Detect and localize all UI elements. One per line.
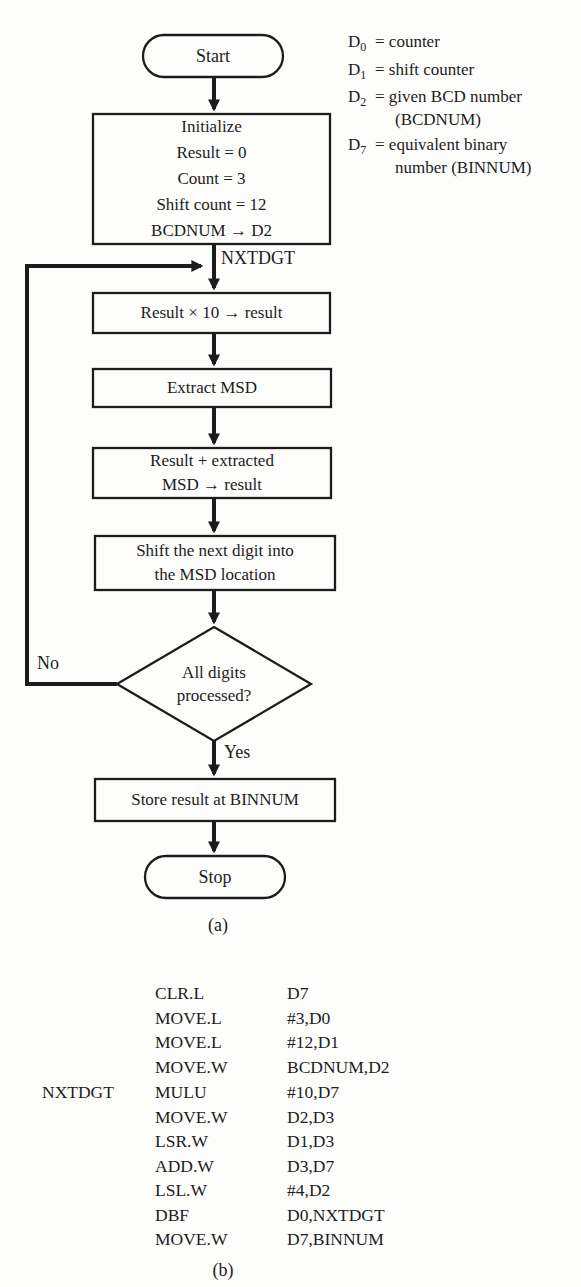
legend-desc: = equivalent binary — [375, 134, 531, 157]
add-line: Result + extracted — [150, 449, 274, 473]
code-operands: #3,D0 — [287, 1008, 330, 1029]
legend-desc: = given BCD number — [375, 86, 522, 109]
code-opcode: MOVE.W — [155, 1057, 227, 1078]
code-line: MOVE.W BCDNUM,D2 — [0, 1057, 581, 1080]
stop-terminal-label: Stop — [145, 856, 285, 898]
legend-desc: = counter — [375, 31, 440, 54]
initialize-line: Initialize — [181, 114, 241, 140]
code-operands: D7,BINNUM — [287, 1229, 384, 1250]
figure-bcd-to-binary: Start Initialize Result = 0 Count = 3 Sh… — [0, 0, 581, 1287]
legend-desc-cont: (BCDNUM) — [375, 109, 522, 132]
code-opcode: ADD.W — [155, 1156, 214, 1177]
code-opcode: MOVE.L — [155, 1008, 222, 1029]
register-name: D1 — [348, 59, 375, 87]
extract-box-label: Extract MSD — [93, 369, 331, 407]
yes-branch-label: Yes — [224, 742, 250, 763]
code-operands: D7 — [287, 983, 308, 1004]
part-a-caption: (a) — [198, 915, 238, 936]
decision-line: processed? — [177, 684, 252, 707]
code-line: MOVE.W D2,D3 — [0, 1107, 581, 1130]
initialize-line: Shift count = 12 — [156, 192, 266, 218]
code-line: DBF D0,NXTDGT — [0, 1205, 581, 1228]
add-box-label: Result + extracted MSD → result — [93, 448, 331, 498]
code-line: ADD.W D3,D7 — [0, 1156, 581, 1179]
code-operands: D1,D3 — [287, 1131, 334, 1152]
legend-desc-cont: number (BINNUM) — [375, 157, 531, 180]
register-name: D0 — [348, 31, 375, 59]
initialize-line: Result = 0 — [176, 140, 246, 166]
code-line: CLR.L D7 — [0, 983, 581, 1006]
initialize-line: Count = 3 — [177, 166, 245, 192]
legend-entry-d1: D1 = shift counter — [348, 59, 531, 87]
code-opcode: MOVE.W — [155, 1229, 227, 1250]
code-line: MOVE.L #12,D1 — [0, 1032, 581, 1055]
register-name: D2 — [348, 86, 375, 131]
code-operands: #10,D7 — [287, 1082, 339, 1103]
multiply-box-label: Result × 10 → result — [93, 293, 330, 333]
code-line: NXTDGT MULU #10,D7 — [0, 1082, 581, 1105]
code-operands: #12,D1 — [287, 1032, 339, 1053]
code-operands: D3,D7 — [287, 1156, 334, 1177]
code-label: NXTDGT — [42, 1082, 114, 1103]
shift-box-label: Shift the next digit into the MSD locati… — [95, 536, 335, 590]
legend-entry-d2: D2 = given BCD number (BCDNUM) — [348, 86, 531, 131]
code-opcode: CLR.L — [155, 983, 204, 1004]
code-line: LSR.W D1,D3 — [0, 1131, 581, 1154]
legend-entry-d7: D7 = equivalent binary number (BINNUM) — [348, 134, 531, 179]
code-operands: D2,D3 — [287, 1107, 334, 1128]
code-opcode: MOVE.W — [155, 1107, 227, 1128]
legend-entry-d0: D0 = counter — [348, 31, 531, 59]
code-line: LSL.W #4,D2 — [0, 1180, 581, 1203]
nxtdgt-branch-label: NXTDGT — [221, 248, 295, 269]
decision-diamond-label: All digits processed? — [117, 627, 311, 741]
add-line: MSD → result — [162, 473, 262, 497]
code-operands: BCDNUM,D2 — [287, 1057, 390, 1078]
shift-line: Shift the next digit into — [136, 539, 294, 563]
initialize-line: BCDNUM → D2 — [151, 218, 272, 244]
code-operands: D0,NXTDGT — [287, 1205, 385, 1226]
code-opcode: MULU — [155, 1082, 207, 1103]
part-b-caption: (b) — [203, 1260, 243, 1281]
register-legend: D0 = counter D1 = shift counter D2 = giv… — [348, 31, 531, 179]
code-line: MOVE.L #3,D0 — [0, 1008, 581, 1031]
legend-desc: = shift counter — [375, 59, 474, 82]
code-opcode: LSR.W — [155, 1131, 208, 1152]
code-line: MOVE.W D7,BINNUM — [0, 1229, 581, 1252]
shift-line: the MSD location — [155, 563, 276, 587]
code-opcode: MOVE.L — [155, 1032, 222, 1053]
code-opcode: LSL.W — [155, 1180, 207, 1201]
code-operands: #4,D2 — [287, 1180, 330, 1201]
start-terminal-label: Start — [143, 35, 283, 77]
decision-line: All digits — [182, 661, 246, 684]
initialize-box-label: Initialize Result = 0 Count = 3 Shift co… — [93, 114, 330, 244]
store-box-label: Store result at BINNUM — [95, 779, 335, 821]
register-name: D7 — [348, 134, 375, 179]
code-opcode: DBF — [155, 1205, 189, 1226]
no-branch-label: No — [37, 653, 59, 674]
